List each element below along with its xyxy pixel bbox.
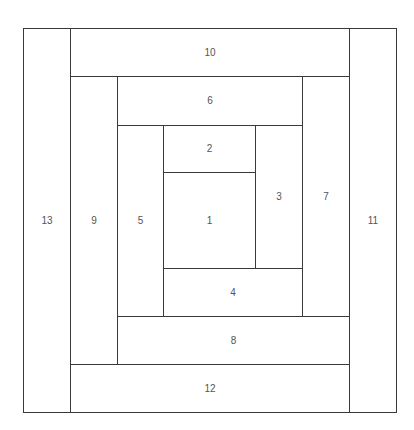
block-12: 12 — [70, 364, 350, 413]
block-10: 10 — [70, 28, 350, 77]
block-2: 2 — [163, 125, 256, 173]
block-7: 7 — [302, 76, 350, 317]
block-label-1: 1 — [207, 216, 213, 226]
block-3: 3 — [255, 125, 303, 269]
block-label-8: 8 — [231, 336, 237, 346]
log-cabin-diagram: 13 10 11 12 9 6 7 8 5 2 3 4 1 — [0, 0, 414, 430]
block-11: 11 — [349, 28, 397, 413]
block-label-9: 9 — [91, 216, 97, 226]
block-label-13: 13 — [41, 216, 52, 226]
block-label-12: 12 — [204, 384, 215, 394]
block-label-6: 6 — [207, 96, 213, 106]
block-6: 6 — [117, 76, 303, 126]
block-8: 8 — [117, 316, 350, 365]
block-label-2: 2 — [207, 144, 213, 154]
block-9: 9 — [70, 76, 118, 365]
block-label-5: 5 — [138, 216, 144, 226]
block-label-11: 11 — [368, 216, 378, 226]
block-label-10: 10 — [204, 48, 215, 58]
block-5: 5 — [117, 125, 164, 317]
block-label-3: 3 — [276, 192, 282, 202]
block-1: 1 — [163, 172, 256, 269]
block-label-7: 7 — [323, 192, 329, 202]
block-label-4: 4 — [230, 288, 236, 298]
block-13: 13 — [23, 28, 71, 413]
block-4: 4 — [163, 268, 303, 317]
